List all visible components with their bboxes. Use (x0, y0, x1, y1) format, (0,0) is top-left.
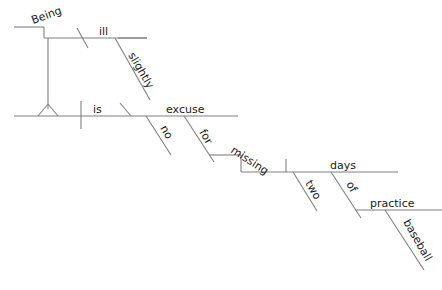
word-label-two: two (302, 178, 323, 202)
word-label-days: days (330, 159, 356, 172)
gerund-pedestal-left-leg (38, 104, 48, 116)
gerund-subject-group (14, 27, 147, 38)
word-label-for: for (196, 127, 215, 147)
sentence-diagram-canvas: Being ill slightly is no excuse for miss… (0, 0, 442, 290)
predicate-nominative-slant (120, 103, 131, 116)
preposition-line-of (331, 172, 361, 218)
word-label-practice: practice (370, 197, 415, 210)
word-label-is: is (93, 103, 102, 116)
word-label-of: of (343, 179, 360, 196)
word-label-being: Being (30, 4, 64, 27)
word-label-ill: ill (99, 25, 108, 38)
word-label-baseball: baseball (400, 217, 434, 263)
word-label-excuse: excuse (166, 103, 205, 116)
diagram-svg: Being ill slightly is no excuse for miss… (0, 0, 442, 290)
gerund-pedestal-right-leg (48, 104, 58, 116)
